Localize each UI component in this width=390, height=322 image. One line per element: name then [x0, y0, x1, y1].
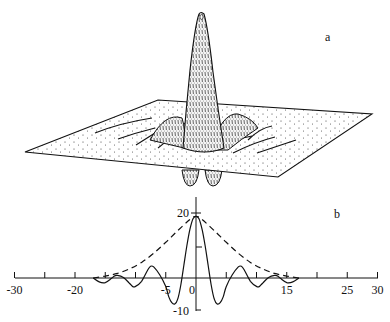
panel-a-surface-plot [25, 13, 372, 187]
peak-tip [200, 15, 203, 20]
x-tick-label: 25 [341, 283, 353, 297]
x-tick-label: 0 [189, 283, 195, 297]
negative-lobe-right [205, 170, 222, 186]
y-tick-label-minus10: -10 [173, 304, 189, 318]
figure: a -30-20-50152530 20 -10 b [0, 0, 390, 322]
x-axis-tick-labels: -30-20-50152530 [7, 283, 384, 297]
x-tick-label: -30 [7, 283, 23, 297]
panel-a-label: a [325, 30, 331, 44]
panel-b-label: b [334, 207, 340, 221]
y-tick-label-20: 20 [177, 206, 189, 220]
x-tick-label: -20 [67, 283, 83, 297]
negative-lobe-left [182, 170, 199, 186]
x-tick-label: 30 [372, 283, 384, 297]
central-peak [183, 13, 224, 153]
panel-b-line-plot: -30-20-50152530 20 -10 [7, 197, 384, 318]
x-tick-label: 15 [281, 283, 293, 297]
